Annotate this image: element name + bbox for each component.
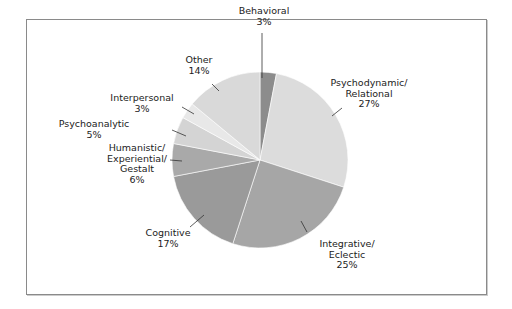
slice-label: Other14%	[186, 54, 213, 76]
pie-chart: Behavioral3%Psychodynamic/Relational27%I…	[0, 0, 512, 309]
slice-label: Psychodynamic/Relational27%	[330, 77, 408, 109]
slice-label: Cognitive17%	[146, 227, 191, 249]
slice-label: Behavioral3%	[239, 5, 290, 27]
slice-label: Integrative/Eclectic25%	[319, 238, 375, 270]
slice-label: Psychoanalytic5%	[59, 118, 130, 140]
slice-label: Humanistic/Experiential/Gestalt6%	[107, 142, 168, 185]
slice-label: Interpersonal3%	[110, 92, 173, 114]
